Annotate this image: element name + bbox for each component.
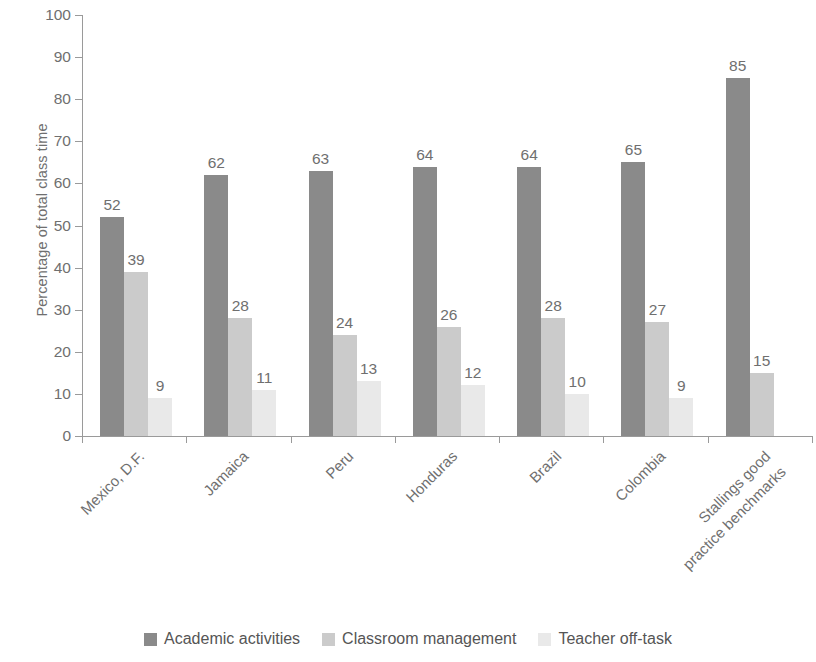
y-tick-mark <box>75 352 82 353</box>
bar-value-label: 12 <box>464 364 481 382</box>
bar-value-label: 64 <box>416 146 433 164</box>
legend-item[interactable]: Classroom management <box>322 630 516 648</box>
bar[interactable]: 27 <box>645 322 669 436</box>
bar[interactable]: 15 <box>750 373 774 436</box>
x-category-label-line: Peru <box>320 446 358 484</box>
legend-label: Academic activities <box>164 630 300 648</box>
bar[interactable]: 65 <box>621 162 645 436</box>
x-tick-mark <box>603 436 604 443</box>
x-tick-mark <box>499 436 500 443</box>
bar-value-label: 10 <box>569 373 586 391</box>
bar[interactable]: 28 <box>541 318 565 436</box>
bar[interactable]: 52 <box>100 217 124 436</box>
bar[interactable]: 63 <box>309 171 333 436</box>
plot-area: 0102030405060708090100 52399622811632413… <box>82 15 812 436</box>
x-tick-mark <box>291 436 292 443</box>
x-tick-mark <box>708 436 709 443</box>
bar[interactable]: 9 <box>148 398 172 436</box>
bar-value-label: 27 <box>649 301 666 319</box>
y-tick-label: 50 <box>54 217 71 235</box>
y-tick-mark <box>75 57 82 58</box>
bar[interactable]: 62 <box>204 175 228 436</box>
bar-value-label: 85 <box>729 57 746 75</box>
bar-value-label: 26 <box>440 306 457 324</box>
y-tick-mark <box>75 99 82 100</box>
bar-group: 52399 <box>82 15 186 436</box>
x-category-label: Peru <box>320 446 358 484</box>
y-axis-title: Percentage of total class time <box>34 90 50 350</box>
bar-value-label: 63 <box>312 150 329 168</box>
x-category-label: Stallings goodpractice benchmarks <box>662 446 791 575</box>
y-tick-label: 100 <box>45 6 71 24</box>
y-tick-label: 90 <box>54 48 71 66</box>
x-category-label: Jamaica <box>199 446 254 501</box>
bar[interactable]: 28 <box>228 318 252 436</box>
bar[interactable]: 64 <box>517 167 541 436</box>
y-tick-label: 20 <box>54 343 71 361</box>
y-tick-label: 60 <box>54 174 71 192</box>
bar[interactable]: 12 <box>461 385 485 436</box>
y-tick-mark <box>75 226 82 227</box>
bar-value-label: 24 <box>336 314 353 332</box>
legend-swatch <box>322 633 335 646</box>
bar-value-label: 15 <box>753 352 770 370</box>
bar[interactable]: 64 <box>413 167 437 436</box>
legend-label: Teacher off-task <box>558 630 672 648</box>
bar-value-label: 13 <box>360 360 377 378</box>
x-category-label: Honduras <box>401 446 462 507</box>
bar-group: 622811 <box>186 15 290 436</box>
bar-value-label: 39 <box>127 251 144 269</box>
bar-chart: Percentage of total class time 010203040… <box>0 0 816 662</box>
legend-item[interactable]: Teacher off-task <box>538 630 672 648</box>
x-category-label-line: Mexico, D.F. <box>76 446 150 520</box>
bar[interactable]: 24 <box>333 335 357 436</box>
bar[interactable]: 13 <box>357 381 381 436</box>
y-tick-label: 10 <box>54 385 71 403</box>
legend-swatch <box>144 633 157 646</box>
x-tick-mark <box>395 436 396 443</box>
bar[interactable]: 10 <box>565 394 589 436</box>
bar-value-label: 28 <box>545 297 562 315</box>
bar-value-label: 9 <box>677 377 686 395</box>
bar[interactable]: 39 <box>124 272 148 436</box>
bar[interactable]: 9 <box>669 398 693 436</box>
bar[interactable]: 11 <box>252 390 276 436</box>
legend-item[interactable]: Academic activities <box>144 630 300 648</box>
chart-legend: Academic activitiesClassroom managementT… <box>0 630 816 648</box>
bar-value-label: 11 <box>256 369 272 387</box>
y-tick-mark <box>75 436 82 437</box>
bar-group: 8515 <box>708 15 812 436</box>
x-axis-line <box>82 436 812 437</box>
bar-value-label: 52 <box>103 196 120 214</box>
bar-group: 632413 <box>291 15 395 436</box>
y-tick-label: 30 <box>54 301 71 319</box>
legend-label: Classroom management <box>342 630 516 648</box>
y-tick-mark <box>75 183 82 184</box>
bar-group: 642612 <box>395 15 499 436</box>
x-category-label-line: Jamaica <box>199 446 254 501</box>
bar-value-label: 65 <box>625 141 642 159</box>
bar-value-label: 64 <box>521 146 538 164</box>
y-tick-label: 40 <box>54 259 71 277</box>
bar[interactable]: 26 <box>437 327 461 436</box>
y-tick-mark <box>75 15 82 16</box>
y-tick-mark <box>75 394 82 395</box>
x-tick-mark <box>812 436 813 443</box>
y-tick-label: 70 <box>54 132 71 150</box>
x-tick-mark <box>186 436 187 443</box>
legend-swatch <box>538 633 551 646</box>
x-tick-mark <box>82 436 83 443</box>
bar-value-label: 9 <box>156 377 165 395</box>
x-category-label-line: Brazil <box>525 446 567 488</box>
x-category-label: Brazil <box>525 446 567 488</box>
y-tick-label: 80 <box>54 90 71 108</box>
y-tick-mark <box>75 310 82 311</box>
y-tick-mark <box>75 141 82 142</box>
y-tick-mark <box>75 268 82 269</box>
bar-group: 65279 <box>603 15 707 436</box>
bar-value-label: 62 <box>208 154 225 172</box>
x-category-label-line: Honduras <box>401 446 462 507</box>
x-category-label: Colombia <box>611 446 671 506</box>
x-category-label: Mexico, D.F. <box>76 446 150 520</box>
bar[interactable]: 85 <box>726 78 750 436</box>
